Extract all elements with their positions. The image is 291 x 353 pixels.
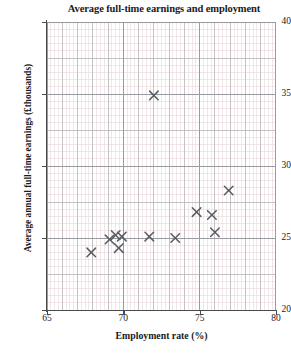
- data-point: [145, 232, 154, 241]
- data-point: [192, 208, 201, 217]
- x-tick-mark: [47, 311, 48, 315]
- y-tick-mark: [42, 22, 46, 23]
- y-tick-label: 25: [257, 232, 291, 242]
- data-point: [118, 232, 127, 241]
- y-tick-label: 40: [257, 16, 291, 26]
- x-axis-title: Employment rate (%): [47, 330, 276, 341]
- chart-title: Average full-time earnings and employmen…: [40, 3, 288, 14]
- data-point: [111, 231, 120, 240]
- y-tick-label: 30: [257, 160, 291, 170]
- y-tick-mark: [42, 310, 46, 311]
- x-tick-mark: [276, 311, 277, 315]
- data-point: [114, 244, 123, 253]
- data-point: [87, 248, 96, 257]
- data-point: [171, 234, 180, 243]
- y-tick-label: 35: [257, 88, 291, 98]
- scatter-chart-figure: Average full-time earnings and employmen…: [0, 0, 291, 353]
- data-point: [150, 91, 159, 100]
- data-point: [208, 211, 217, 220]
- y-axis-line: [46, 20, 47, 312]
- x-axis-line: [45, 310, 277, 311]
- x-tick-mark: [200, 311, 201, 315]
- y-tick-mark: [42, 238, 46, 239]
- y-tick-mark: [42, 166, 46, 167]
- data-point: [224, 186, 233, 195]
- data-point: [211, 228, 220, 237]
- y-axis-title: Average annual full-time earnings (£thou…: [23, 33, 33, 283]
- y-tick-mark: [42, 94, 46, 95]
- data-point: [105, 235, 114, 244]
- plot-area: [47, 22, 276, 310]
- x-tick-mark: [123, 311, 124, 315]
- data-points-layer: [47, 22, 276, 310]
